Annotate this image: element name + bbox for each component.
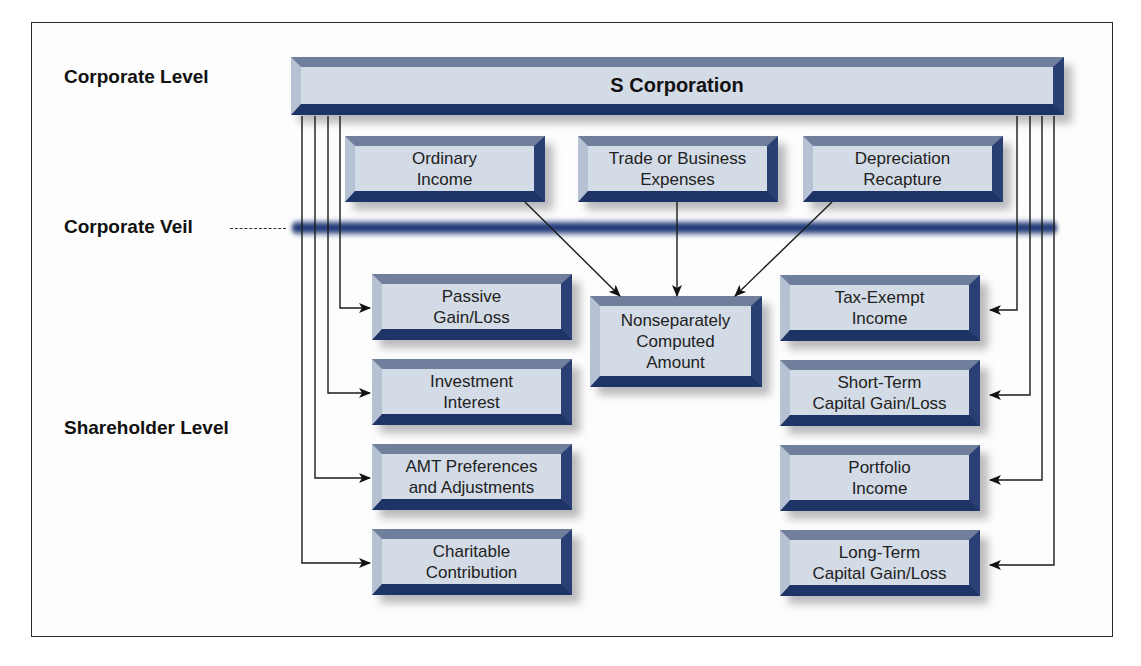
connector-arrows [0,0,1141,666]
